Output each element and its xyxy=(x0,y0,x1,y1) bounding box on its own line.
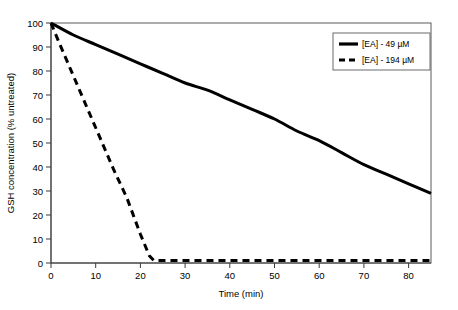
chart-figure: 0 10 20 30 40 50 60 70 80 90 100 0 10 xyxy=(0,0,458,310)
y-tick-label: 80 xyxy=(32,66,43,77)
y-tick-label: 20 xyxy=(32,210,43,221)
x-tick-label: 80 xyxy=(403,270,414,281)
gsh-decay-line-chart: 0 10 20 30 40 50 60 70 80 90 100 0 10 xyxy=(0,0,458,310)
y-tick-label: 60 xyxy=(32,114,43,125)
y-tick-label: 10 xyxy=(32,234,43,245)
y-tick-label: 40 xyxy=(32,162,43,173)
y-tick-label: 70 xyxy=(32,90,43,101)
x-tick-label: 30 xyxy=(180,270,191,281)
x-axis-ticks xyxy=(51,263,409,268)
x-tick-label: 40 xyxy=(225,270,236,281)
legend-label-ea-49: [EA] - 49 µM xyxy=(362,39,409,49)
x-tick-label: 0 xyxy=(48,270,53,281)
y-tick-label: 90 xyxy=(32,42,43,53)
y-tick-label: 0 xyxy=(38,258,43,269)
x-axis-title: Time (min) xyxy=(218,288,263,299)
x-tick-label: 70 xyxy=(359,270,370,281)
x-axis-tick-labels: 0 10 20 30 40 50 60 70 80 xyxy=(48,270,414,281)
y-tick-label: 30 xyxy=(32,186,43,197)
x-tick-label: 20 xyxy=(135,270,146,281)
x-tick-label: 50 xyxy=(269,270,280,281)
y-tick-label: 50 xyxy=(32,138,43,149)
y-axis-tick-labels: 0 10 20 30 40 50 60 70 80 90 100 xyxy=(27,18,43,269)
chart-legend: [EA] - 49 µM [EA] - 194 µM xyxy=(333,33,430,70)
legend-label-ea-194: [EA] - 194 µM xyxy=(362,55,414,65)
y-axis-ticks xyxy=(46,23,51,263)
y-axis-title: GSH concentration (% untreated) xyxy=(5,73,16,213)
x-tick-label: 60 xyxy=(314,270,325,281)
y-tick-label: 100 xyxy=(27,18,43,29)
x-tick-label: 10 xyxy=(90,270,101,281)
